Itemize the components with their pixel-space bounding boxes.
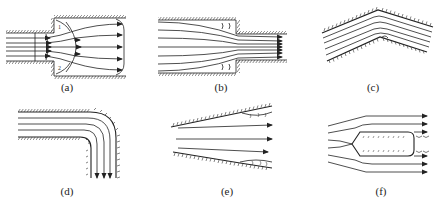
panel-a-sudden-expansion — [6, 15, 126, 79]
panel-e-diverging-duct — [171, 103, 272, 170]
panel-a-corner-mark-1: 1 — [58, 24, 61, 30]
panel-b-sudden-contraction — [158, 17, 287, 76]
panel-d-elbow — [18, 108, 120, 178]
panel-label-d: (d) — [61, 185, 74, 197]
panel-label-c: (c) — [367, 81, 379, 93]
panel-label-f: (f) — [376, 185, 387, 197]
panel-label-a: (a) — [61, 81, 73, 93]
panel-label-b: (b) — [215, 81, 228, 93]
panel-f-bluff-body — [328, 116, 429, 172]
flow-patterns-figure: 1 2 — [0, 0, 443, 209]
panel-label-e: (e) — [221, 185, 233, 197]
panel-a-corner-mark-2: 2 — [58, 65, 61, 71]
panel-c-angled-bend — [322, 7, 433, 63]
